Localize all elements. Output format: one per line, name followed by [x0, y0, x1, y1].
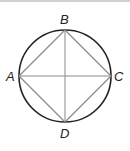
label-C: C	[114, 69, 124, 84]
label-A: A	[5, 69, 15, 84]
label-D: D	[60, 126, 69, 141]
geometry-diagram: A B C D	[0, 0, 130, 151]
label-B: B	[60, 12, 69, 27]
